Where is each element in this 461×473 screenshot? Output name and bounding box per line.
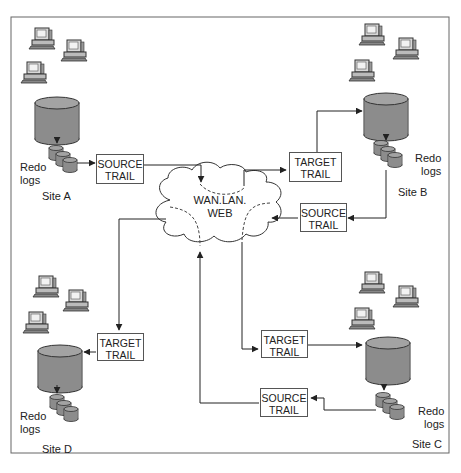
site-b-source-trail: SOURCETRAIL — [300, 203, 347, 232]
network-cloud-label: WAN.LAN.WEB — [184, 194, 256, 220]
site-b-label: Site B — [398, 186, 427, 199]
site-d-computers — [23, 276, 89, 333]
site-a-redo-label: Redologs — [20, 161, 46, 187]
site-a-computers — [21, 28, 87, 83]
site-a-database — [35, 97, 79, 145]
site-b-redo-logs — [374, 141, 402, 168]
site-b-computers — [349, 24, 419, 81]
site-d-redo-logs — [50, 395, 78, 422]
site-c-target-trail: TARGETTRAIL — [261, 330, 308, 358]
site-c-redo-logs — [376, 393, 404, 420]
site-a-label: Site A — [42, 190, 71, 203]
diagram-canvas — [0, 0, 461, 473]
site-d-label: Site D — [42, 443, 72, 456]
site-a-source-trail: SOURCETRAIL — [96, 154, 144, 184]
site-c-redo-label: Redologs — [418, 405, 444, 431]
site-c-computers — [349, 272, 419, 329]
site-b-target-trail: TARGETTRAIL — [289, 152, 342, 182]
site-c-database — [366, 337, 410, 385]
site-d-database — [38, 345, 82, 393]
site-b-redo-label: Redologs — [415, 152, 441, 178]
site-a-redo-logs — [49, 146, 77, 173]
site-c-source-trail: SOURCETRAIL — [260, 388, 308, 417]
site-d-target-trail: TARGETTRAIL — [97, 333, 144, 361]
site-b-database — [364, 93, 408, 141]
site-d-redo-label: Redologs — [20, 410, 46, 436]
site-c-label: Site C — [412, 438, 442, 451]
